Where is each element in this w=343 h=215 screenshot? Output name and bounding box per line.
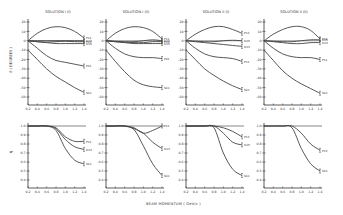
y-tick-label: 20 <box>99 20 103 24</box>
x-tick-label: 0.4 <box>271 190 276 194</box>
y-tick-label: 20 <box>179 20 183 24</box>
y-tick-label: -40 <box>98 76 103 80</box>
bottom-y-axis-label: η <box>8 150 13 153</box>
y-tick-label: 0.9 <box>256 133 261 137</box>
series-label: D13 <box>244 45 250 49</box>
x-tick-label: 0.6 <box>44 190 49 194</box>
y-tick-label: -60 <box>256 95 261 99</box>
x-tick-label: 0.8 <box>289 107 294 111</box>
y-tick-label: -40 <box>256 76 261 80</box>
y-tick-label: -30 <box>98 67 103 71</box>
y-tick-label: 1.0 <box>20 124 25 128</box>
y-tick-label: -10 <box>20 48 25 52</box>
curve-P11 <box>106 27 162 41</box>
y-tick-label: 0 <box>259 39 261 43</box>
y-tick-label: 0.9 <box>20 133 25 137</box>
y-tick-label: -20 <box>98 58 103 62</box>
y-tick-label: -10 <box>256 48 261 52</box>
series-label: P13 <box>244 31 250 35</box>
panel-bottom-1: 1.00.90.80.70.60.50.40.20.40.60.81.01.21… <box>20 123 92 194</box>
y-tick-label: 0.6 <box>178 160 183 164</box>
series-label: D13 <box>86 148 92 152</box>
x-tick-label: 1.2 <box>308 190 313 194</box>
y-tick-label: 10 <box>99 30 103 34</box>
y-tick-label: 0.8 <box>178 142 183 146</box>
y-tick-label: 0 <box>23 39 25 43</box>
x-tick-label: 0.2 <box>25 107 30 111</box>
series-label: S01 <box>244 174 250 178</box>
y-tick-label: 0.4 <box>20 178 25 182</box>
x-tick-label: 0.2 <box>183 107 188 111</box>
y-tick-label: 0.7 <box>98 151 103 155</box>
series-label: P11 <box>322 58 328 62</box>
y-tick-label: -60 <box>178 95 183 99</box>
x-tick-label: 1.0 <box>299 190 304 194</box>
panel-top-2: 20100-10-20-30-40-50-600.20.40.60.81.01.… <box>98 10 170 111</box>
series-label: D15 <box>86 42 92 46</box>
x-tick-label: 1.2 <box>230 190 235 194</box>
series-label: P11 <box>244 60 250 64</box>
x-tick-label: 0.4 <box>35 107 40 111</box>
panel-title: SOLUTION II (ii) <box>280 10 308 14</box>
curve-D13 <box>264 41 320 44</box>
y-tick-label: 0.7 <box>20 151 25 155</box>
series-label: S01 <box>164 86 170 90</box>
x-tick-label: 0.6 <box>280 107 285 111</box>
x-tick-label: 1.4 <box>317 107 322 111</box>
x-tick-label: 0.2 <box>183 190 188 194</box>
panel-top-3: 20100-10-20-30-40-50-600.20.40.60.81.01.… <box>178 10 250 111</box>
x-tick-label: 0.6 <box>202 190 207 194</box>
y-tick-label: 0.9 <box>98 133 103 137</box>
y-tick-label: 1.0 <box>178 124 183 128</box>
x-tick-label: 0.2 <box>25 190 30 194</box>
y-tick-label: 0.9 <box>178 133 183 137</box>
multi-panel-chart: 20100-10-20-30-40-50-600.20.40.60.81.01.… <box>0 0 343 215</box>
x-tick-label: 0.8 <box>131 190 136 194</box>
y-tick-label: 0.5 <box>256 169 261 173</box>
phase-shift-figure: 20100-10-20-30-40-50-600.20.40.60.81.01.… <box>0 0 343 215</box>
y-tick-label: 0.5 <box>178 169 183 173</box>
curve-S01 <box>186 50 242 89</box>
series-label: S01 <box>322 169 328 173</box>
y-tick-label: -20 <box>178 58 183 62</box>
x-tick-label: 1.4 <box>159 107 164 111</box>
x-tick-label: 1.4 <box>239 190 244 194</box>
curve-S01 <box>106 50 162 88</box>
x-tick-label: 0.8 <box>53 107 58 111</box>
y-tick-label: 0.7 <box>256 151 261 155</box>
y-tick-label: -60 <box>98 95 103 99</box>
y-tick-label: -60 <box>20 95 25 99</box>
y-tick-label: 0.6 <box>98 160 103 164</box>
panel-bottom-3: 1.00.90.80.70.60.50.40.20.40.60.81.01.21… <box>178 123 250 194</box>
y-tick-label: -50 <box>178 86 183 90</box>
series-label: S01 <box>86 91 92 95</box>
x-tick-label: 0.2 <box>103 107 108 111</box>
y-tick-label: -40 <box>20 76 25 80</box>
y-tick-label: -50 <box>256 86 261 90</box>
y-tick-label: 0.6 <box>20 160 25 164</box>
curve-P13 <box>264 26 320 40</box>
y-tick-label: 0.8 <box>256 142 261 146</box>
panel-top-1: 20100-10-20-30-40-50-600.20.40.60.81.01.… <box>20 10 92 111</box>
series-label: S01 <box>322 91 328 95</box>
x-tick-label: 0.2 <box>261 190 266 194</box>
panel-bottom-4: 1.00.90.80.70.60.50.40.20.40.60.81.01.21… <box>256 123 327 194</box>
curve-P01 <box>28 41 84 66</box>
y-tick-label: 1.0 <box>256 124 261 128</box>
curve-S01 <box>264 126 320 171</box>
y-tick-label: 0 <box>101 39 103 43</box>
x-tick-label: 0.6 <box>122 190 127 194</box>
y-tick-label: 20 <box>21 20 25 24</box>
x-tick-label: 1.2 <box>72 107 77 111</box>
x-tick-label: 1.4 <box>317 190 322 194</box>
y-tick-label: 10 <box>179 30 183 34</box>
x-tick-label: 1.4 <box>81 107 86 111</box>
y-tick-label: 0.4 <box>256 178 261 182</box>
y-tick-label: -20 <box>20 58 25 62</box>
series-label: P11 <box>86 140 92 144</box>
x-tick-label: 1.0 <box>299 107 304 111</box>
y-tick-label: 0.4 <box>98 178 103 182</box>
y-tick-label: -10 <box>98 48 103 52</box>
curve-S01 <box>28 50 84 92</box>
y-tick-label: -40 <box>178 76 183 80</box>
